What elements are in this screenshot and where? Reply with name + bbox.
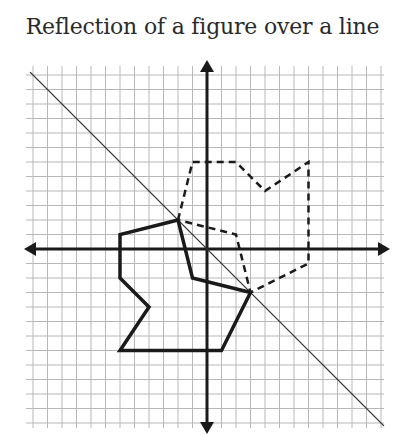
coordinate-plane xyxy=(0,0,405,435)
x-axis-right-arrow-icon xyxy=(378,242,390,256)
y-axis-down-arrow-icon xyxy=(200,422,214,434)
y-axis-up-arrow-icon xyxy=(200,60,214,72)
reflected-figure xyxy=(178,162,309,293)
original-figure xyxy=(120,220,251,351)
x-axis-left-arrow-icon xyxy=(24,242,36,256)
